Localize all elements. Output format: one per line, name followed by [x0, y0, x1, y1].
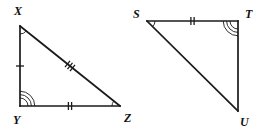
angle-arc-Y-1	[20, 98, 28, 106]
angle-arcs-T	[223, 21, 238, 36]
vertex-label-T: T	[245, 7, 253, 21]
angle-arc-X-1	[20, 31, 26, 34]
vertex-label-X: X	[13, 4, 23, 18]
vertex-label-Z: Z	[123, 111, 132, 125]
geometry-canvas: XYZSTU	[0, 0, 263, 130]
triangle-xyz: XYZ	[13, 4, 132, 127]
geometry-figure: XYZSTU	[0, 0, 263, 130]
side-SU	[147, 21, 238, 111]
vertex-label-U: U	[240, 115, 250, 129]
svg-content: XYZSTU	[13, 4, 253, 129]
angle-arcs-Y	[20, 91, 35, 106]
angle-arc-T-1	[230, 21, 238, 29]
vertex-label-Y: Y	[13, 113, 22, 127]
triangle-stu: STU	[133, 7, 253, 129]
angle-arcs-X	[20, 31, 26, 34]
vertex-label-S: S	[133, 7, 140, 21]
